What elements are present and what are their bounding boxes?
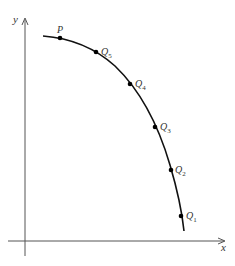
point-Q4: Q4 [128, 78, 147, 92]
point-label: Q2 [175, 164, 186, 178]
point-dot [179, 214, 184, 219]
curve [43, 36, 184, 231]
point-Q3: Q3 [153, 121, 172, 135]
point-Q2: Q2 [169, 164, 187, 178]
secant-diagram: y x P Q5 Q4 Q3 Q2 Q1 [0, 0, 235, 266]
point-dot [128, 82, 133, 87]
point-label: P [56, 24, 63, 35]
point-label: Q3 [160, 121, 171, 135]
x-axis-label: x [220, 241, 226, 253]
point-dot [169, 168, 174, 173]
point-Q5: Q5 [94, 46, 113, 60]
point-dot [153, 125, 158, 130]
point-dot [58, 36, 63, 41]
point-label: Q4 [135, 78, 146, 92]
y-axis-label: y [12, 13, 18, 25]
point-label: Q1 [186, 210, 197, 224]
point-dot [94, 50, 99, 55]
point-label: Q5 [101, 46, 112, 60]
